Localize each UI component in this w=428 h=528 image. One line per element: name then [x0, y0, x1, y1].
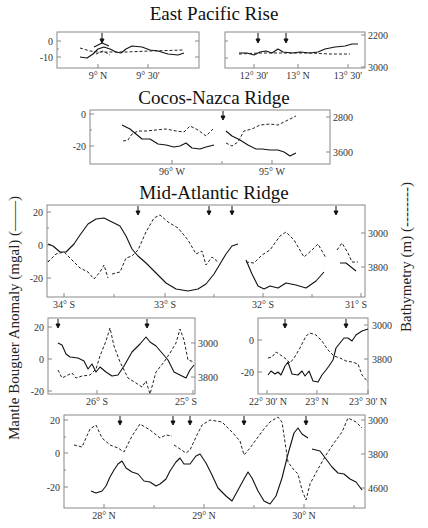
arrow-marker-icon	[145, 319, 149, 328]
arrow-marker-icon	[242, 416, 246, 425]
y-tick: 0	[249, 335, 254, 346]
y-tick-right: 3000	[198, 338, 218, 349]
y-tick-right: 3800	[368, 262, 388, 273]
x-tick: 29° N	[192, 510, 216, 521]
y-tick-right: 3800	[368, 449, 388, 460]
x-tick: 23° 30' N	[349, 396, 387, 407]
x-tick: 9° 30'	[136, 70, 159, 81]
x-tick: 22° 30' N	[249, 396, 287, 407]
arrow-marker-icon	[230, 206, 234, 215]
arrow-marker-icon	[136, 206, 140, 215]
y-tick: 0	[38, 240, 43, 251]
arrow-marker-icon	[118, 416, 122, 425]
arrow-marker-icon	[221, 111, 225, 120]
arrow-marker-icon	[188, 416, 192, 425]
x-tick: 28° N	[92, 510, 116, 521]
x-tick: 25° S	[175, 396, 197, 407]
y-tick: 0	[55, 448, 60, 459]
arrow-marker-icon	[304, 416, 308, 425]
x-tick: 96° W	[159, 166, 185, 177]
x-tick: 23° N	[305, 396, 329, 407]
panel-mar-28-30N: 20 0 -20 3000 3800 4600 28° N 29° N 30° …	[47, 415, 388, 521]
y-tick-right: 2200	[368, 30, 388, 41]
y-tick-right: 3000	[368, 415, 388, 426]
y-tick-right: 3600	[333, 147, 353, 158]
y-tick-right: 3800	[372, 354, 392, 365]
y-tick-right: 2800	[333, 112, 353, 123]
x-tick: 32° S	[252, 299, 274, 310]
panel-mar-22-23N: 0 -20 3000 3800 22° 30' N 23° N 23° 30' …	[241, 318, 392, 407]
arrow-marker-icon	[284, 33, 288, 43]
y-tick: 0	[39, 354, 44, 365]
x-tick: 12° 30'	[240, 70, 268, 81]
x-tick: 13° 30'	[334, 70, 362, 81]
x-tick: 31° S	[345, 299, 367, 310]
arrow-marker-icon	[344, 319, 348, 328]
y-tick-right: 3800	[198, 372, 218, 383]
arrow-marker-icon	[207, 206, 211, 215]
y-tick: -20	[73, 141, 86, 152]
y-tick: 20	[33, 207, 43, 218]
arrow-marker-icon	[256, 33, 260, 43]
y-tick-right: 3000	[372, 320, 392, 331]
x-tick: 95° W	[259, 166, 285, 177]
x-tick: 33° S	[154, 299, 176, 310]
y-tick: -20	[30, 273, 43, 284]
panel-epr-left: 0 -10 9° N 9° 30'	[40, 32, 199, 81]
arrow-marker-icon	[283, 319, 287, 328]
arrow-marker-icon	[334, 206, 338, 215]
x-tick: 13° N	[286, 70, 310, 81]
title-mid-atlantic-ridge: Mid-Atlantic Ridge	[139, 182, 288, 203]
arrow-marker-icon	[100, 33, 104, 43]
arrow-marker-icon	[171, 416, 175, 425]
y-tick-right: 3000	[368, 62, 388, 73]
y-tick-right: 4600	[368, 483, 388, 494]
y-tick: -20	[241, 367, 254, 378]
arrow-marker-icon	[56, 319, 60, 328]
figure-canvas: East Pacific Rise Cocos-Nazca Ridge Mid-…	[0, 0, 428, 528]
y-tick: 0	[48, 36, 53, 47]
y-tick: 0	[81, 109, 86, 120]
y-tick-right: 3000	[368, 228, 388, 239]
y-axis-label-left: Mantle Bouguer Anomaly (mgal) (——)	[6, 196, 23, 440]
y-tick: 20	[50, 415, 60, 426]
y-tick: -10	[40, 52, 53, 63]
panel-epr-right: 2200 3000 12° 30' 13° N 13° 30'	[225, 30, 388, 81]
panel-mar-25-26S: 20 0 -20 3000 3800 26° S 25° S	[31, 318, 218, 407]
x-tick: 34° S	[53, 299, 75, 310]
panel-cocos-nazca: 0 -20 2800 3600 96° W 95° W	[73, 109, 353, 177]
x-tick: 26° S	[86, 396, 108, 407]
panel-mar-31-34S: 20 0 -20 3000 3800 34° S 33° S 32° S 31°…	[30, 205, 388, 310]
title-east-pacific-rise: East Pacific Rise	[150, 3, 279, 24]
y-tick: 20	[34, 322, 44, 333]
title-cocos-nazca-ridge: Cocos-Nazca Ridge	[138, 87, 289, 108]
x-tick: 30° N	[292, 510, 316, 521]
y-tick: -20	[47, 482, 60, 493]
x-tick: 9° N	[89, 70, 108, 81]
y-tick: -20	[31, 386, 44, 397]
y-axis-label-right: Bathymetry (m) (--------)	[398, 182, 415, 332]
